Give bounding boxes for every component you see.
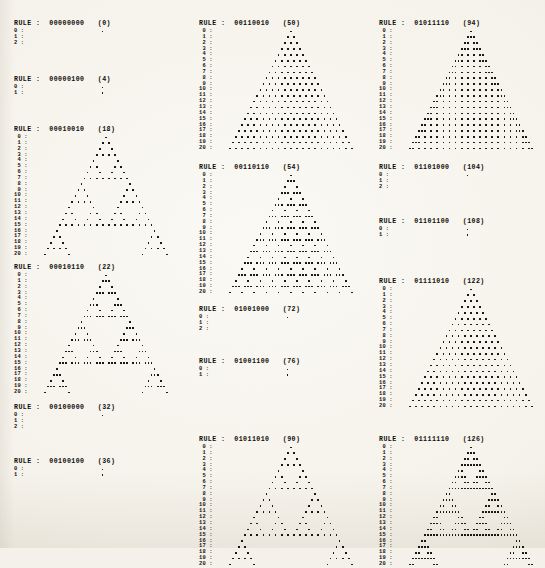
- ca-cell: [504, 400, 506, 402]
- ca-cell: [455, 341, 457, 343]
- ca-cell: [494, 83, 496, 85]
- ca-cell: [302, 77, 304, 79]
- ca-cell: [253, 564, 255, 566]
- ca-cell: [452, 359, 454, 361]
- ca-cell: [105, 137, 107, 139]
- ca-cell: [305, 227, 307, 229]
- ca-cell: [269, 216, 271, 218]
- ca-cell: [501, 394, 503, 396]
- ca-cell: [433, 517, 435, 519]
- ca-cell: [510, 534, 512, 536]
- ca-cell: [476, 48, 478, 50]
- ca-cell: [482, 312, 484, 314]
- ca-cell: [281, 274, 283, 276]
- ca-cell: [50, 242, 52, 244]
- ca-cell: [470, 324, 472, 326]
- ca-cell: [287, 274, 289, 276]
- ca-cell: [458, 534, 460, 536]
- ca-cell: [458, 476, 460, 478]
- automaton-canvas-4: [25, 85, 181, 97]
- ca-cell: [284, 458, 286, 460]
- ca-cell: [473, 318, 475, 320]
- rule-label-72: RULE : 01001000 (72): [199, 306, 366, 313]
- ca-cell: [333, 552, 335, 554]
- ca-cell: [473, 42, 475, 44]
- ca-cell: [467, 365, 469, 367]
- ca-cell: [455, 376, 457, 378]
- ca-cell: [293, 192, 295, 194]
- ca-cell: [308, 148, 310, 150]
- ca-cell: [415, 136, 417, 138]
- ca-cell: [436, 136, 438, 138]
- ca-cell: [241, 124, 243, 126]
- rule-label-54: RULE : 00110110 (54): [199, 164, 369, 171]
- ca-cell: [317, 251, 319, 253]
- ca-cell: [293, 142, 295, 144]
- ca-cell: [464, 534, 466, 536]
- ca-cell: [105, 275, 107, 277]
- ca-cell: [455, 523, 457, 525]
- ca-cell: [467, 376, 469, 378]
- ca-cell: [235, 148, 237, 150]
- ca-cell: [126, 178, 128, 180]
- ca-cell: [510, 118, 512, 120]
- ca-cell: [440, 95, 442, 97]
- ca-cell: [479, 48, 481, 50]
- ca-cell: [427, 406, 429, 408]
- ca-cell: [287, 216, 289, 218]
- ca-cell: [263, 95, 265, 97]
- ca-cell: [449, 499, 451, 501]
- ca-cell: [455, 136, 457, 138]
- ca-cell: [250, 274, 252, 276]
- ca-cell: [90, 339, 92, 341]
- ca-cell: [424, 546, 426, 548]
- ca-cell: [293, 60, 295, 62]
- ca-cell: [284, 148, 286, 150]
- ca-cell: [336, 546, 338, 548]
- ca-cell: [99, 357, 101, 359]
- ca-cell: [464, 406, 466, 408]
- ca-cell: [482, 476, 484, 478]
- ca-cell: [287, 227, 289, 229]
- ca-cell: [433, 534, 435, 536]
- ca-cell: [317, 107, 319, 109]
- ca-cell: [427, 546, 429, 548]
- ca-cell: [342, 546, 344, 548]
- ca-cell: [305, 95, 307, 97]
- ca-cell: [436, 130, 438, 132]
- ca-cell: [102, 280, 104, 282]
- ca-cell: [145, 351, 147, 353]
- ca-cell: [470, 36, 472, 38]
- ca-cell: [263, 227, 265, 229]
- ca-cell: [461, 488, 463, 490]
- ca-cell: [473, 107, 475, 109]
- ca-cell: [418, 546, 420, 548]
- ca-cell: [497, 107, 499, 109]
- ca-cell: [299, 239, 301, 241]
- ca-cell: [436, 124, 438, 126]
- ca-cell: [455, 113, 457, 115]
- ca-cell: [299, 251, 301, 253]
- ca-cell: [293, 262, 295, 264]
- ca-cell: [449, 142, 451, 144]
- ca-cell: [507, 371, 509, 373]
- ca-cell: [272, 148, 274, 150]
- ca-cell: [504, 101, 506, 103]
- ca-cell: [449, 101, 451, 103]
- rule-grid-122: 0 :1 :2 :3 :4 :5 :6 :7 :8 :9 :10 :11 :12…: [379, 287, 545, 410]
- ca-cell: [81, 183, 83, 185]
- ca-cell: [485, 341, 487, 343]
- ca-cell: [62, 357, 64, 359]
- ca-cell: [455, 529, 457, 531]
- ca-cell: [513, 394, 515, 396]
- ca-cell: [497, 118, 499, 120]
- ca-cell: [47, 248, 49, 250]
- ca-cell: [430, 124, 432, 126]
- ca-cell: [123, 195, 125, 197]
- automaton-canvas-76: [210, 367, 366, 379]
- ca-cell: [333, 280, 335, 282]
- ca-cell: [275, 60, 277, 62]
- ca-cell: [120, 213, 122, 215]
- ca-cell: [482, 517, 484, 519]
- ca-cell: [305, 523, 307, 525]
